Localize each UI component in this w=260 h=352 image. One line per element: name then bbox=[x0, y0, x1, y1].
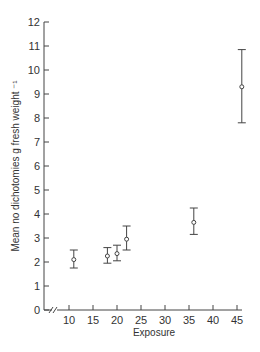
circle-marker-icon bbox=[192, 220, 196, 224]
x-tick-label: 35 bbox=[183, 314, 195, 326]
circle-marker-icon bbox=[240, 85, 244, 89]
y-tick-label: 0 bbox=[34, 304, 40, 316]
y-tick-label: 9 bbox=[34, 88, 40, 100]
circle-marker-icon bbox=[115, 252, 119, 256]
data-point bbox=[123, 226, 131, 250]
data-points bbox=[70, 50, 246, 268]
y-tick-label: 5 bbox=[34, 184, 40, 196]
data-point bbox=[238, 50, 246, 123]
x-tick-label: 10 bbox=[63, 314, 75, 326]
x-tick-label: 25 bbox=[135, 314, 147, 326]
y-tick-label: 8 bbox=[34, 112, 40, 124]
y-tick-label: 6 bbox=[34, 160, 40, 172]
data-point bbox=[103, 248, 111, 264]
y-axis-title: Mean no dichotomies g fresh weight ⁻¹ bbox=[10, 80, 21, 252]
data-point bbox=[190, 208, 198, 234]
x-tick-label: 20 bbox=[111, 314, 123, 326]
y-tick-label: 2 bbox=[34, 256, 40, 268]
y-tick-label: 1 bbox=[34, 280, 40, 292]
y-tick-label: 10 bbox=[28, 64, 40, 76]
x-tick-label: 45 bbox=[231, 314, 243, 326]
y-tick-label: 7 bbox=[34, 136, 40, 148]
y-tick-label: 4 bbox=[34, 208, 40, 220]
x-tick-label: 30 bbox=[159, 314, 171, 326]
x-axis-title: Exposure bbox=[133, 327, 176, 338]
y-tick-label: 11 bbox=[29, 40, 40, 52]
data-point bbox=[70, 250, 78, 268]
x-tick-label: 15 bbox=[87, 314, 99, 326]
data-point bbox=[113, 245, 121, 261]
axes: 01234567891011121015202530354045 bbox=[28, 16, 243, 326]
y-tick-label: 12 bbox=[28, 16, 40, 28]
axis-break-icon bbox=[53, 307, 57, 313]
circle-marker-icon bbox=[105, 254, 109, 258]
y-tick-label: 3 bbox=[34, 232, 40, 244]
x-tick-label: 40 bbox=[207, 314, 219, 326]
scatter-chart: 01234567891011121015202530354045 Exposur… bbox=[0, 0, 260, 352]
circle-marker-icon bbox=[125, 237, 129, 241]
circle-marker-icon bbox=[72, 258, 76, 262]
